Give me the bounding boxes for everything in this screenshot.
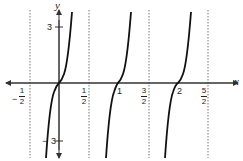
y-axis-label: y [55, 1, 60, 10]
x-tick-neg-sign: − [12, 94, 17, 104]
x-tick-label-neg-half: 1 2 [19, 87, 25, 106]
frac-den: 2 [20, 98, 24, 106]
frac-num: 1 [20, 87, 24, 95]
x-tick-label-half: 1 2 [81, 87, 87, 106]
frac-den: 2 [202, 98, 206, 106]
y-tick-label-neg3: 3 [51, 137, 56, 146]
tan-curves [46, 12, 191, 158]
x-tick-label-five-half: 5 2 [201, 87, 207, 106]
asymptotes [30, 10, 208, 158]
frac-num: 3 [142, 87, 146, 95]
branch-2 [165, 12, 191, 158]
tangent-plot [0, 0, 243, 161]
x-axis-label: x [234, 77, 239, 86]
frac-den: 2 [142, 98, 146, 106]
frac-num: 1 [82, 87, 86, 95]
y-tick-label-neg-sign: − [42, 136, 47, 146]
frac-num: 5 [202, 87, 206, 95]
x-tick-label-three-half: 3 2 [141, 87, 147, 106]
frac-den: 2 [82, 98, 86, 106]
y-tick-label-3: 3 [47, 23, 52, 32]
branch-1 [106, 12, 131, 158]
x-tick-label-1: 1 [117, 87, 122, 96]
x-tick-label-2: 2 [177, 87, 182, 96]
